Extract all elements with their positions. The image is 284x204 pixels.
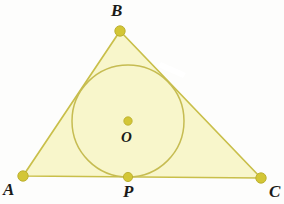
point-marker-p [123, 172, 132, 181]
vertex-label-b: B [111, 2, 122, 19]
geometry-figure: A B C P O [0, 0, 284, 204]
center-label-o: O [121, 130, 132, 145]
point-marker-c [256, 173, 266, 183]
vertex-label-a: A [3, 181, 14, 198]
tangency-label-p: P [123, 183, 133, 200]
point-marker-o [124, 117, 132, 125]
geometry-canvas [0, 0, 284, 204]
vertex-label-c: C [269, 183, 280, 200]
point-marker-b [115, 26, 125, 36]
point-marker-a [18, 171, 28, 181]
triangle-abc [23, 31, 261, 178]
